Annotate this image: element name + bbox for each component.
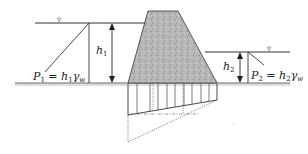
dam-pressure-diagram: ∇ ∇ h1 P1 = h1γw h2 P2 = h bbox=[0, 0, 308, 154]
water-level-icon: ∇ bbox=[56, 16, 62, 23]
p1-label: P1 = h1γw bbox=[32, 70, 85, 84]
h2-dimension-arrow bbox=[237, 52, 243, 83]
stray-mark bbox=[233, 123, 234, 124]
downstream-water-surface: ∇ bbox=[205, 45, 290, 52]
uplift-pressure-diagram bbox=[128, 84, 217, 142]
h2-label: h2 bbox=[223, 60, 235, 74]
gravity-dam-body bbox=[128, 11, 217, 83]
ground-hatch bbox=[15, 83, 290, 86]
p2-label: P2 = h2γw bbox=[250, 69, 303, 83]
h1-dimension-arrow bbox=[109, 23, 115, 83]
h1-label: h1 bbox=[96, 44, 108, 58]
upstream-water-surface: ∇ bbox=[35, 16, 150, 23]
water-level-icon: ∇ bbox=[266, 45, 272, 52]
